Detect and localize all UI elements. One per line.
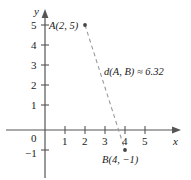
point-a-marker — [83, 23, 87, 27]
y-axis-arrowhead — [42, 9, 49, 18]
x-tick-label-4: 4 — [122, 136, 128, 147]
x-tick-label-3: 3 — [102, 136, 108, 147]
y-tick-label-1: 1 — [31, 100, 37, 111]
y-tick-label-4: 4 — [31, 40, 37, 51]
y-tick-label-2: 2 — [31, 80, 37, 91]
distance-formula-figure: 5 4 3 2 1 0 −1 1 2 3 4 5 x y A(2, 5) B(4… — [0, 0, 191, 180]
x-tick-label-1: 1 — [62, 136, 68, 147]
point-b-marker — [123, 148, 127, 152]
y-tick-label-5: 5 — [31, 20, 37, 31]
distance-annotation-label: d(A, B) ≈ 6.32 — [104, 67, 164, 78]
origin-label: 0 — [31, 133, 37, 144]
x-tick-label-2: 2 — [82, 136, 88, 147]
y-tick-label-3: 3 — [31, 60, 37, 71]
y-tick-label-minus-1: −1 — [25, 148, 37, 159]
y-axis-label: y — [34, 6, 39, 17]
x-axis-label: x — [173, 136, 178, 147]
x-axis-arrowhead — [172, 127, 181, 134]
point-a-label: A(2, 5) — [49, 21, 78, 32]
point-b-label: B(4, −1) — [102, 155, 138, 166]
x-tick-label-5: 5 — [142, 136, 148, 147]
